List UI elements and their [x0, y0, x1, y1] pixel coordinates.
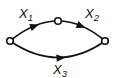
edge-label-x1: X1 — [18, 6, 33, 23]
edge-label-x2-subscript: 2 — [93, 12, 100, 23]
arrowhead-x2-icon — [76, 21, 87, 31]
arrowhead-x3-icon — [56, 54, 66, 62]
edge-label-x2: X2 — [84, 6, 100, 23]
graph-diagram: X1 X2 X3 — [0, 0, 117, 78]
right-node — [102, 38, 109, 45]
edge-label-x3-subscript: 3 — [62, 68, 68, 78]
edge-x1 — [10, 21, 58, 41]
edge-label-x3: X3 — [52, 62, 68, 78]
edge-x2 — [58, 21, 105, 41]
middle-node — [55, 18, 62, 25]
graph-diagram-canvas: X1 X2 X3 — [0, 0, 117, 78]
edge-label-x1-subscript: 1 — [28, 12, 33, 23]
left-node — [7, 38, 14, 45]
